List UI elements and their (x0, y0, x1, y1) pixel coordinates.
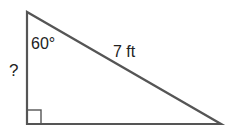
triangle-diagram: 60° 7 ft ? (0, 0, 226, 135)
unknown-side-label: ? (9, 61, 18, 80)
right-angle-marker (27, 110, 41, 124)
right-triangle (27, 12, 221, 124)
angle-label: 60° (31, 35, 55, 52)
hypotenuse-label: 7 ft (113, 43, 136, 60)
